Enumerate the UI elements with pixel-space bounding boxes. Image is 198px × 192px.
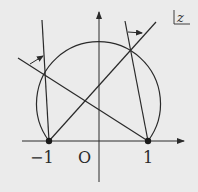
circle-arc	[36, 42, 160, 141]
line-from-one	[18, 58, 148, 141]
diagram-canvas: z −1 O 1	[0, 0, 198, 192]
plane-label: z	[176, 10, 184, 25]
label-minus-one: −1	[30, 148, 54, 167]
angle-arrow-left	[30, 56, 43, 64]
point-one	[145, 138, 151, 144]
point-minus-one	[46, 138, 52, 144]
vertical-line-right	[125, 21, 148, 141]
line-from-minus-one	[49, 22, 156, 141]
label-origin: O	[78, 148, 91, 167]
label-one: 1	[143, 148, 153, 167]
angle-arrow-right	[128, 32, 142, 33]
complex-plane-figure: z −1 O 1	[0, 0, 198, 192]
vertical-line-left	[42, 20, 49, 141]
